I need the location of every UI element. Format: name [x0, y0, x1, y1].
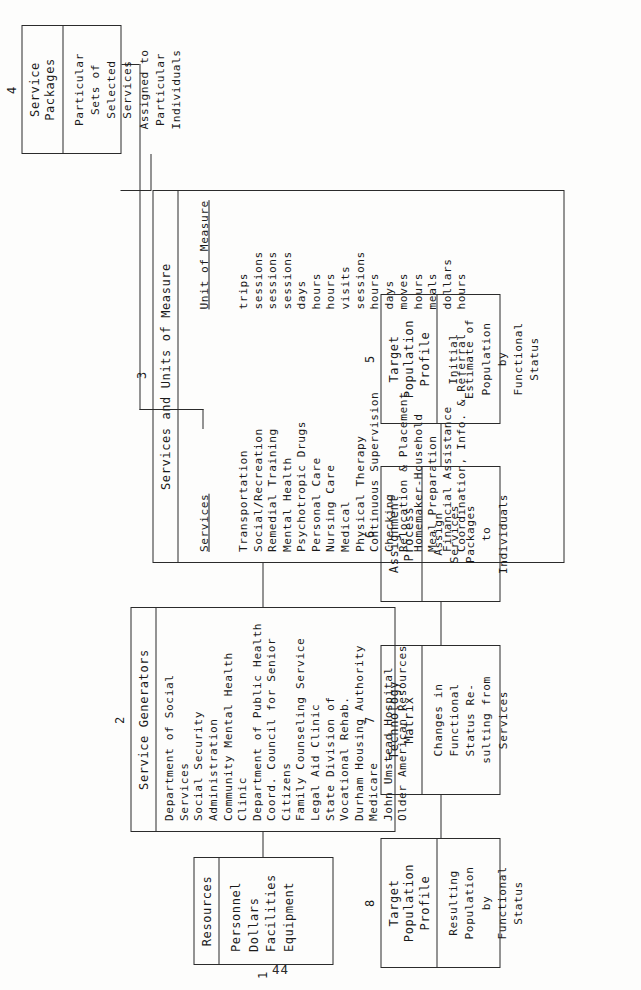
- box-number-3: 3: [134, 371, 148, 379]
- box-number-4: 4: [4, 86, 18, 94]
- connector-b1-b2: [262, 832, 263, 857]
- connector-b2-b3: [262, 563, 263, 607]
- connector-b3-b4: [150, 154, 151, 190]
- box-number-1: 1: [255, 971, 269, 979]
- box-service-packages-title: Service Packages: [22, 26, 63, 153]
- page-number: 44: [272, 962, 289, 977]
- box-number-6: 6: [362, 530, 376, 538]
- box-target-population-resulting-title: Target Population Profile: [381, 839, 437, 967]
- box-number-8: 8: [362, 899, 376, 907]
- connector-b3-b4-stub: [120, 190, 151, 191]
- box-target-population-initial-title: Target Population Profile: [381, 295, 437, 423]
- figure-page: Resources Personnel Dollars Facilities E…: [0, 0, 641, 990]
- box-services-units-title: Services and Units of Measure: [153, 191, 178, 562]
- box-number-7: 7: [362, 716, 376, 724]
- box-technology-matrix: Technology Matrix Changes in Functional …: [380, 645, 500, 795]
- box-service-generators-items: Department of Social Services Social Sec…: [156, 608, 416, 831]
- services-column-header: Services: [197, 333, 212, 552]
- flowchart-canvas: Resources Personnel Dollars Facilities E…: [0, 0, 641, 990]
- box-target-population-initial-items: Initial Estimate of Population by Functi…: [437, 295, 548, 423]
- box-target-population-resulting: Target Population Profile Resulting Popu…: [380, 838, 500, 968]
- box-number-2: 2: [112, 716, 126, 724]
- box-assignment-process-items: Assign Services Packages to Individuals: [422, 467, 517, 601]
- connector-b7-b8: [440, 795, 441, 838]
- box-resources-title: Resources: [194, 858, 219, 964]
- box-service-packages: Service Packages Particular Sets of Sele…: [21, 25, 121, 154]
- box-target-population-initial: Target Population Profile Initial Estima…: [380, 294, 500, 424]
- box-assignment-process: Assignment Process Assign Services Packa…: [380, 466, 500, 602]
- box-resources-items: Personnel Dollars Facilities Equipment: [219, 858, 303, 964]
- box-technology-matrix-items: Changes in Functional Status Re- sulting…: [422, 646, 517, 794]
- box-service-packages-items: Particular Sets of Selected Services Ass…: [63, 26, 191, 153]
- box-target-population-resulting-items: Resulting Population by Functional Statu…: [437, 839, 532, 967]
- box-service-generators: Service Generators Department of Social …: [130, 607, 395, 832]
- box-service-generators-title: Service Generators: [131, 608, 156, 831]
- box-technology-matrix-title: Technology Matrix: [381, 646, 422, 794]
- connector-b6-b7: [440, 602, 441, 645]
- box-resources: Resources Personnel Dollars Facilities E…: [193, 857, 333, 965]
- units-column-header: Unit of Measure: [197, 200, 212, 309]
- box-number-5: 5: [362, 355, 376, 363]
- box-assignment-process-title: Assignment Process: [381, 467, 422, 601]
